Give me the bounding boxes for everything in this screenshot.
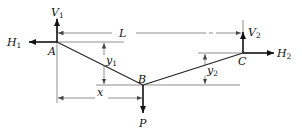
label-p: P <box>138 117 147 129</box>
dimension-y2 <box>198 53 242 84</box>
label-h1: H1 <box>6 36 21 50</box>
cable-diagram: V1 H1 A L V2 H2 C y1 y2 B x P <box>0 0 302 129</box>
label-h2: H2 <box>276 47 292 61</box>
cable-segment-bc <box>143 53 243 85</box>
cable <box>57 42 243 85</box>
dimension-l <box>57 18 243 33</box>
label-x: x <box>97 86 104 99</box>
label-point-b: B <box>137 73 146 86</box>
label-v1: V1 <box>51 6 64 20</box>
label-y1: y1 <box>105 54 117 68</box>
label-point-a: A <box>47 45 56 58</box>
label-point-c: C <box>238 55 247 68</box>
label-y2: y2 <box>206 64 218 78</box>
label-v2: V2 <box>248 26 261 40</box>
cable-segment-ab <box>57 42 143 85</box>
label-l: L <box>118 27 126 40</box>
